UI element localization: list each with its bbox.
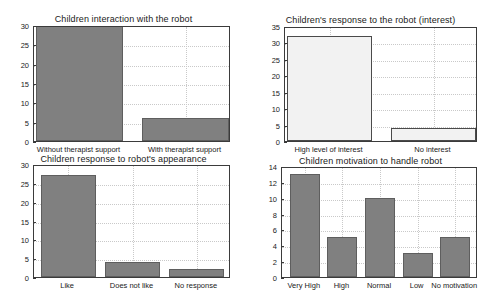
bar	[440, 237, 470, 277]
y-axis-tick-label: 10	[21, 236, 29, 245]
y-axis-tick-mark	[33, 26, 36, 27]
y-axis-tick-label: 2	[273, 258, 277, 267]
chart-title: Children response to robot's appearance	[0, 154, 247, 164]
chart-panel-children-motivation: Children motivation to handle robot 0246…	[247, 151, 494, 302]
x-axis-tick-label: High	[334, 281, 349, 290]
x-axis-tick-label: Low	[410, 281, 424, 290]
y-axis-tick-label: 30	[21, 22, 29, 31]
y-axis-tick-label: 10	[269, 194, 277, 203]
y-axis-tick-label: 25	[272, 55, 280, 64]
y-axis-tick-mark	[281, 278, 284, 279]
y-axis-tick-mark	[33, 84, 36, 85]
plot-area	[33, 26, 230, 142]
y-axis-tick-label: 12	[269, 178, 277, 187]
bar	[41, 175, 96, 277]
bar	[365, 198, 395, 277]
y-axis-tick-label: 10	[21, 99, 29, 108]
y-axis-tick-mark	[33, 65, 36, 66]
bar	[287, 36, 372, 141]
y-axis-tick-mark	[284, 43, 287, 44]
y-axis-tick-label: 6	[273, 226, 277, 235]
y-axis-tick-mark	[284, 109, 287, 110]
y-axis-tick-mark	[284, 27, 287, 28]
bar	[169, 269, 224, 277]
figure-panel-grid: Children interaction with the robot 0510…	[0, 0, 494, 302]
y-axis-tick-mark	[33, 142, 36, 143]
y-axis-tick-mark	[281, 215, 284, 216]
y-axis-tick-label: 20	[21, 60, 29, 69]
chart-panel-robot-appearance: Children response to robot's appearance …	[0, 151, 247, 302]
y-axis-tick-mark	[33, 222, 36, 223]
bar	[391, 128, 476, 141]
y-axis-tick-mark	[33, 103, 36, 104]
x-axis-tick-label: Like	[60, 281, 74, 290]
bar	[105, 262, 160, 277]
y-axis-tick-label: 25	[21, 179, 29, 188]
y-axis-tick-mark	[284, 142, 287, 143]
y-axis-tick-label: 4	[273, 242, 277, 251]
y-axis-tick-mark	[281, 199, 284, 200]
y-axis-tick-mark	[284, 60, 287, 61]
y-axis-tick-label: 10	[272, 105, 280, 114]
plot-area	[33, 165, 230, 278]
y-axis-tick-label: 20	[272, 72, 280, 81]
y-axis-tick-label: 5	[276, 121, 280, 130]
y-axis-tick-mark	[281, 183, 284, 184]
y-axis-tick-mark	[284, 76, 287, 77]
y-axis-tick-mark	[33, 123, 36, 124]
y-axis-tick-mark	[33, 45, 36, 46]
x-axis-tick-label: Does not like	[110, 281, 153, 290]
bar	[142, 118, 229, 141]
chart-title: Children motivation to handle robot	[247, 156, 494, 166]
chart-title: Children's response to the robot (intere…	[247, 15, 494, 25]
bar	[403, 253, 433, 277]
plot-area	[281, 167, 477, 278]
bar	[36, 26, 123, 141]
bar	[290, 174, 320, 277]
gridline-vertical	[133, 166, 134, 277]
x-axis-tick-label: No motivation	[431, 281, 477, 290]
y-axis-tick-mark	[33, 203, 36, 204]
y-axis-tick-mark	[33, 278, 36, 279]
y-axis-tick-label: 5	[25, 255, 29, 264]
y-axis-tick-mark	[281, 167, 284, 168]
y-axis-tick-label: 0	[25, 274, 29, 283]
y-axis-tick-mark	[281, 262, 284, 263]
y-axis-tick-mark	[33, 184, 36, 185]
y-axis-tick-label: 0	[273, 274, 277, 283]
y-axis-tick-label: 15	[21, 80, 29, 89]
y-axis-tick-label: 0	[25, 138, 29, 147]
plot-area	[284, 27, 477, 142]
gridline-vertical	[197, 166, 198, 277]
bar	[327, 237, 357, 277]
y-axis-tick-label: 30	[272, 39, 280, 48]
y-axis-tick-label: 35	[272, 23, 280, 32]
chart-panel-children-response-interest: Children's response to the robot (intere…	[247, 0, 494, 151]
y-axis-tick-label: 5	[25, 118, 29, 127]
x-axis-tick-label: Normal	[367, 281, 391, 290]
gridline-vertical	[434, 28, 435, 141]
y-axis-tick-mark	[284, 126, 287, 127]
chart-panel-children-interaction: Children interaction with the robot 0510…	[0, 0, 247, 151]
y-axis-tick-label: 8	[273, 210, 277, 219]
y-axis-tick-mark	[281, 246, 284, 247]
y-axis-tick-label: 20	[21, 198, 29, 207]
y-axis-tick-label: 0	[276, 138, 280, 147]
y-axis-tick-mark	[33, 259, 36, 260]
y-axis-tick-label: 30	[21, 161, 29, 170]
x-axis-tick-label: No response	[175, 281, 218, 290]
y-axis-tick-label: 14	[269, 163, 277, 172]
y-axis-tick-mark	[281, 230, 284, 231]
x-axis-tick-label: Very High	[288, 281, 321, 290]
y-axis-tick-label: 15	[21, 217, 29, 226]
y-axis-tick-mark	[284, 93, 287, 94]
y-axis-tick-mark	[33, 240, 36, 241]
y-axis-tick-label: 15	[272, 88, 280, 97]
chart-title: Children interaction with the robot	[0, 14, 247, 24]
y-axis-tick-label: 25	[21, 41, 29, 50]
y-axis-tick-mark	[33, 165, 36, 166]
